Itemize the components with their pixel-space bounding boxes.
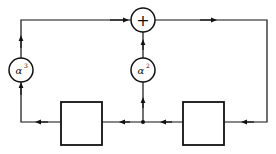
- wire-top-left: [21, 20, 131, 58]
- multiplier-alpha3-base: α: [16, 65, 23, 76]
- multiplier-alpha2-exponent: 2: [146, 62, 150, 69]
- multiplier-alpha3-exponent: 3: [24, 62, 28, 69]
- multiplier-alpha3: α 3: [9, 58, 33, 82]
- adder-symbol: +: [136, 11, 149, 30]
- multiplier-alpha2-base: α: [138, 65, 145, 76]
- wire-box1-left: [21, 82, 61, 122]
- block-diagram: + α 3 α 2: [0, 0, 276, 154]
- adder: +: [131, 8, 155, 32]
- delay-block-left: [61, 102, 102, 145]
- junction-dot: [141, 120, 145, 124]
- delay-block-right: [183, 102, 224, 145]
- multiplier-alpha2: α 2: [131, 58, 155, 82]
